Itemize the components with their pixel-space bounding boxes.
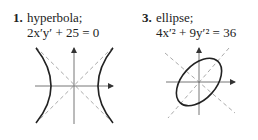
- figures: [0, 0, 258, 140]
- rotated-axis-1: [165, 53, 235, 113]
- ellipse-graph: [165, 48, 235, 118]
- hyperbola-graph: [35, 47, 113, 124]
